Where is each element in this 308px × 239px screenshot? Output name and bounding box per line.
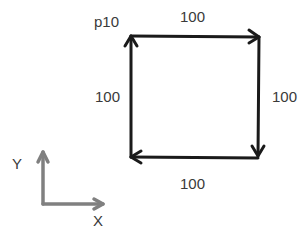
bottom-edge-arrow: [131, 151, 258, 163]
square-path-diagram: p10 100 100 100 100 Y X: [0, 0, 308, 239]
y-axis-label: Y: [12, 155, 22, 172]
top-edge-label: 100: [180, 8, 205, 25]
left-edge-arrow: [125, 36, 137, 157]
x-axis-arrow: [43, 199, 103, 209]
start-point-label: p10: [94, 13, 119, 30]
left-edge-label: 100: [95, 88, 120, 105]
bottom-edge-label: 100: [180, 175, 205, 192]
x-axis-label: X: [93, 212, 103, 229]
right-edge-arrow: [252, 37, 264, 156]
right-edge-label: 100: [272, 88, 297, 105]
top-edge-arrow: [131, 30, 259, 43]
y-axis-arrow: [38, 152, 48, 204]
